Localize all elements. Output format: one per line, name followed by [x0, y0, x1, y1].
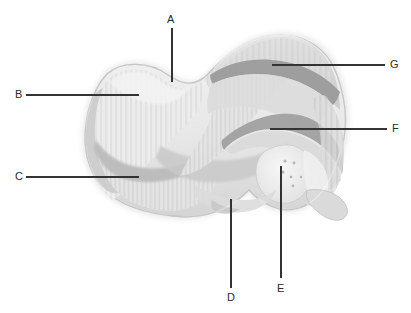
label-f: F — [392, 123, 399, 134]
label-d: D — [227, 292, 235, 303]
label-a: A — [167, 14, 174, 25]
figure-canvas: A B C D E F G — [0, 0, 411, 313]
label-g: G — [390, 59, 399, 70]
posterior-facet — [256, 145, 311, 203]
lateral-process — [306, 190, 347, 221]
label-e: E — [277, 283, 284, 294]
bone-body-group — [82, 32, 349, 220]
bone-illustration — [0, 0, 411, 313]
label-c: C — [15, 171, 23, 182]
label-b: B — [15, 89, 22, 100]
